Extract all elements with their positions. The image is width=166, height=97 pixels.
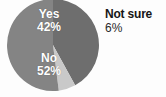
pie-callout-not-sure-percent: 6%	[105, 22, 166, 36]
pie-label-no: No 52%	[27, 52, 71, 77]
pie-chart-figure: Yes 42% No 52% Not sure 6%	[0, 0, 166, 97]
pie-callout-not-sure-name: Not sure	[105, 8, 166, 21]
pie-label-yes-percent: 42%	[27, 21, 71, 34]
pie-label-no-name: No	[27, 52, 71, 65]
pie-label-no-percent: 52%	[27, 65, 71, 78]
pie-label-yes-name: Yes	[27, 8, 71, 21]
pie-callout-not-sure: Not sure 6%	[105, 8, 166, 36]
pie-label-yes: Yes 42%	[27, 8, 71, 33]
